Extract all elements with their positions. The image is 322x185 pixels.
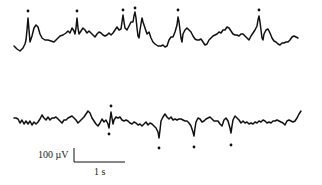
trace-bottom-group <box>14 105 301 150</box>
eeg-trace-top <box>14 12 298 51</box>
spike-marker-dot <box>134 7 137 10</box>
trace-top-group <box>14 7 298 51</box>
spike-marker-dot <box>258 9 261 12</box>
scale-bar: 100 µV 1 s <box>38 148 125 177</box>
time-label: 1 s <box>94 166 106 177</box>
spike-marker-dot <box>108 133 111 136</box>
spike-marker-dot <box>193 146 196 149</box>
scale-bar-lines <box>74 148 125 162</box>
spike-marker-dot <box>230 144 233 147</box>
spike-marker-dot <box>177 9 180 12</box>
spike-marker-dot <box>110 105 113 108</box>
spike-marker-dot <box>76 10 79 13</box>
spike-marker-dot <box>27 10 30 13</box>
amplitude-label: 100 µV <box>38 149 69 160</box>
spike-marker-dot <box>158 147 161 150</box>
eeg-trace-bottom <box>14 111 301 138</box>
eeg-figure: 100 µV 1 s <box>0 0 322 185</box>
spike-marker-dot <box>122 9 125 12</box>
spike-markers-top <box>27 7 261 13</box>
spike-markers-bottom <box>108 105 233 150</box>
